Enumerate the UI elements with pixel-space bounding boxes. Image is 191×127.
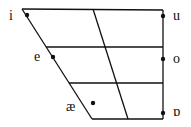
vowel-dot-ae xyxy=(91,101,95,105)
vowel-dot-i xyxy=(25,13,29,17)
vowel-dot-e xyxy=(51,55,55,59)
vowel-dot-open-o xyxy=(161,111,165,115)
vowel-label-ae: æ xyxy=(66,100,75,114)
front-edge xyxy=(22,9,92,119)
vowel-label-i: i xyxy=(9,9,13,23)
vowel-dot-o xyxy=(161,57,165,61)
vowel-label-e: e xyxy=(34,50,40,64)
vowel-label-o: o xyxy=(173,52,180,66)
central-divider xyxy=(93,9,128,119)
vowel-dot-u xyxy=(161,14,165,18)
vowel-trapezoid xyxy=(0,0,191,127)
vowel-label-u: u xyxy=(173,9,180,23)
vowel-label-open-o: ɒ xyxy=(173,105,180,119)
